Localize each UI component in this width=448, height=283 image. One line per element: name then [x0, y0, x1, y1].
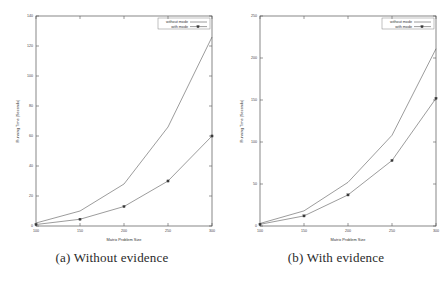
- y-axis-tick-label: 100: [27, 74, 33, 78]
- panel-b: 050100150200250100150200250300Matrix Pro…: [224, 0, 448, 283]
- y-axis-tick-label: 250: [251, 14, 257, 18]
- series-line-1: [260, 98, 436, 224]
- y-axis-title: Running Time (Seconds): [15, 99, 20, 143]
- data-point-marker: [167, 180, 169, 182]
- chart-b: 050100150200250100150200250300Matrix Pro…: [224, 0, 448, 248]
- y-axis-tick-label: 80: [29, 104, 33, 108]
- plot-frame: [36, 16, 212, 226]
- y-axis-title: Running Time (Seconds): [239, 99, 244, 143]
- panel-a: 020406080100120140100150200250300Matrix …: [0, 0, 224, 283]
- series-line-1: [36, 136, 212, 225]
- y-axis-tick-label: 0: [31, 224, 33, 228]
- x-axis-tick-label: 100: [33, 229, 39, 233]
- series-line-0: [260, 49, 436, 224]
- legend-marker-1: [197, 26, 199, 28]
- data-point-marker: [35, 223, 37, 225]
- data-point-marker: [303, 215, 305, 217]
- data-point-marker: [79, 218, 81, 220]
- chart-b-svg: 050100150200250100150200250300Matrix Pro…: [224, 0, 448, 248]
- data-point-marker: [211, 135, 213, 137]
- data-point-marker: [259, 223, 261, 225]
- x-axis-tick-label: 100: [257, 229, 263, 233]
- legend-label-0: without mode: [166, 20, 188, 24]
- series-line-0: [36, 37, 212, 223]
- legend-label-1: with mode: [395, 25, 412, 29]
- data-point-marker: [123, 205, 125, 207]
- y-axis-tick-label: 50: [253, 182, 257, 186]
- legend-label-0: without mode: [390, 20, 412, 24]
- x-axis-tick-label: 200: [345, 229, 351, 233]
- y-axis-tick-label: 120: [27, 44, 33, 48]
- chart-a-svg: 020406080100120140100150200250300Matrix …: [0, 0, 224, 248]
- y-axis-tick-label: 100: [251, 140, 257, 144]
- legend-marker-1: [421, 26, 423, 28]
- data-point-marker: [435, 97, 437, 99]
- y-axis-tick-label: 20: [29, 194, 33, 198]
- y-axis-tick-label: 200: [251, 56, 257, 60]
- data-point-marker: [391, 159, 393, 161]
- x-axis-tick-label: 200: [121, 229, 127, 233]
- y-axis-tick-label: 0: [255, 224, 257, 228]
- x-axis-tick-label: 250: [389, 229, 395, 233]
- chart-a: 020406080100120140100150200250300Matrix …: [0, 0, 224, 248]
- y-axis-tick-label: 150: [251, 98, 257, 102]
- y-axis-tick-label: 140: [27, 14, 33, 18]
- data-point-marker: [347, 194, 349, 196]
- x-axis-title: Matrix Problem Size: [107, 237, 142, 242]
- panel-b-caption: (b) With evidence: [224, 250, 448, 266]
- y-axis-tick-label: 40: [29, 164, 33, 168]
- x-axis-tick-label: 300: [433, 229, 439, 233]
- x-axis-tick-label: 300: [209, 229, 215, 233]
- x-axis-title: Matrix Problem Size: [331, 237, 366, 242]
- y-axis-tick-label: 60: [29, 134, 33, 138]
- legend-label-1: with mode: [171, 25, 188, 29]
- panel-a-caption: (a) Without evidence: [0, 250, 224, 266]
- figure-two-panel: 020406080100120140100150200250300Matrix …: [0, 0, 448, 283]
- x-axis-tick-label: 250: [165, 229, 171, 233]
- x-axis-tick-label: 150: [301, 229, 307, 233]
- x-axis-tick-label: 150: [77, 229, 83, 233]
